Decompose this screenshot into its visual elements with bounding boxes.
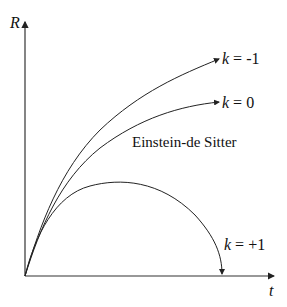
label-k-0: k = 0 [222, 94, 254, 112]
label-k-eq: = -1 [229, 50, 259, 67]
label-k-minus-1: k = -1 [222, 50, 259, 68]
curve-k-0 [25, 102, 219, 276]
curve-k-minus-1 [25, 59, 219, 276]
diagram-canvas [0, 0, 287, 307]
y-axis-label: R [10, 14, 20, 32]
x-axis-label: t [269, 282, 273, 300]
label-k-eq: = +1 [231, 236, 265, 253]
label-einstein-de-sitter: Einstein-de Sitter [132, 134, 237, 151]
cosmology-diagram: R t k = -1 k = 0 Einstein-de Sitter k = … [0, 0, 287, 307]
label-k-plus-1: k = +1 [224, 236, 265, 254]
label-k-eq: = 0 [229, 94, 254, 111]
